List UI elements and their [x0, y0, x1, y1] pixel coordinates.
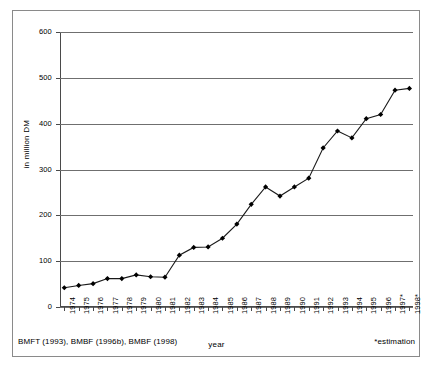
- data-point-marker: [392, 88, 397, 93]
- x-tick-mark: [194, 307, 195, 311]
- data-point-marker: [105, 276, 110, 281]
- x-tick-mark: [366, 307, 367, 311]
- y-tick-mark: [56, 307, 60, 308]
- x-tick-mark: [165, 307, 166, 311]
- x-tick-mark: [107, 307, 108, 311]
- x-tick-mark: [237, 307, 238, 311]
- data-point-marker: [134, 272, 139, 277]
- x-tick-mark: [266, 307, 267, 311]
- data-point-marker: [292, 184, 297, 189]
- data-series-line: [60, 32, 413, 307]
- estimation-note: *estimation: [374, 337, 415, 346]
- x-tick-mark: [381, 307, 382, 311]
- x-tick-mark: [122, 307, 123, 311]
- y-tick-label: 500: [28, 73, 52, 82]
- data-point-marker: [191, 245, 196, 250]
- data-point-marker: [62, 285, 67, 290]
- x-tick-mark: [151, 307, 152, 311]
- x-tick-mark: [64, 307, 65, 311]
- chart-figure: 0100200300400500600 19741975197619771978…: [0, 0, 433, 370]
- data-point-marker: [90, 281, 95, 286]
- x-tick-mark: [93, 307, 94, 311]
- x-tick-mark: [352, 307, 353, 311]
- plot-area: 0100200300400500600 19741975197619771978…: [60, 32, 413, 307]
- y-axis-label: in million DM: [22, 120, 31, 168]
- y-tick-label: 300: [28, 165, 52, 174]
- x-tick-mark: [280, 307, 281, 311]
- data-point-marker: [378, 112, 383, 117]
- source-note: BMFT (1993), BMBF (1996b), BMBF (1998): [18, 337, 177, 346]
- x-tick-mark: [294, 307, 295, 311]
- x-tick-mark: [395, 307, 396, 311]
- x-tick-mark: [309, 307, 310, 311]
- x-tick-mark: [251, 307, 252, 311]
- series-polyline: [64, 88, 409, 287]
- y-tick-label: 400: [28, 119, 52, 128]
- x-tick-mark: [409, 307, 410, 311]
- y-tick-label: 100: [28, 256, 52, 265]
- x-tick-mark: [79, 307, 80, 311]
- x-tick-mark: [222, 307, 223, 311]
- x-tick-mark: [338, 307, 339, 311]
- y-tick-label: 200: [28, 210, 52, 219]
- x-tick-mark: [323, 307, 324, 311]
- data-point-marker: [76, 283, 81, 288]
- data-point-marker: [306, 176, 311, 181]
- y-tick-label: 0: [28, 302, 52, 311]
- x-tick-label: 1998*: [413, 294, 422, 314]
- data-point-marker: [148, 274, 153, 279]
- data-point-marker: [277, 193, 282, 198]
- x-tick-mark: [208, 307, 209, 311]
- data-point-marker: [206, 244, 211, 249]
- x-tick-mark: [179, 307, 180, 311]
- y-tick-label: 600: [28, 27, 52, 36]
- data-point-marker: [119, 276, 124, 281]
- x-tick-mark: [136, 307, 137, 311]
- data-point-marker: [407, 86, 412, 91]
